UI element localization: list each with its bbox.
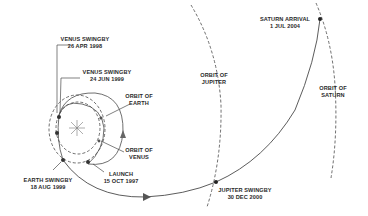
venus-orbit-marker <box>98 140 101 143</box>
earth-orbit-marker <box>99 116 102 119</box>
leader-earth-swingby <box>53 162 61 170</box>
trajectory-inner-loop-2 <box>59 103 104 164</box>
label-orbit-jupiter: ORBIT OF JUPITER <box>198 72 230 86</box>
venus-swingby-2-dot <box>55 131 59 135</box>
trajectory-inner-loop-1 <box>58 93 123 164</box>
label-venus-swingby-2: VENUS SWINGBY 24 JUN 1999 <box>80 69 134 83</box>
leader-orbit-venus <box>101 141 124 152</box>
orbit-jupiter <box>191 5 221 207</box>
label-orbit-saturn: ORBIT OF SATURN <box>316 85 350 99</box>
label-launch: LAUNCH 15 OCT 1997 <box>100 171 142 185</box>
label-venus-swingby-1: VENUS SWINGBY 26 APR 1998 <box>58 36 112 50</box>
saturn-arrival-dot <box>318 17 322 21</box>
jupiter-swingby-dot <box>214 180 218 184</box>
label-orbit-earth: ORBIT OF EARTH <box>124 93 154 107</box>
earth-swingby-dot <box>61 158 65 162</box>
label-jupiter-swingby: JUPITER SWINGBY 30 DEC 2000 <box>214 187 276 201</box>
label-orbit-venus: ORBIT OF VENUS <box>124 147 154 161</box>
sun-icon <box>69 120 85 136</box>
direction-arrow-icon <box>120 130 126 138</box>
venus-swingby-1-dot <box>57 115 61 119</box>
direction-arrow-icon <box>143 193 151 201</box>
launch-dot <box>86 160 90 164</box>
label-earth-swingby: EARTH SWINGBY 18 AUG 1999 <box>18 177 78 191</box>
label-saturn-arrival: SATURN ARRIVAL 1 JUL 2004 <box>254 16 316 30</box>
